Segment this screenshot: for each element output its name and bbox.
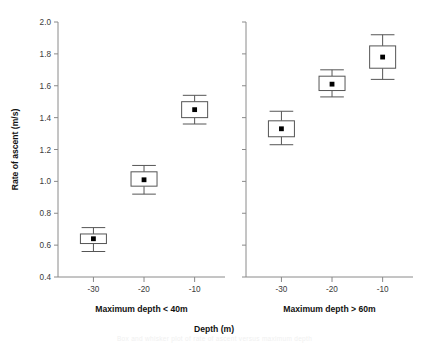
x-tick-label: -10: [189, 285, 201, 294]
x-tick-label: -30: [88, 285, 100, 294]
box-whisker-item: [268, 111, 294, 144]
median-marker: [330, 82, 335, 87]
median-marker: [279, 126, 284, 131]
axis-titles: Depth (m)Rate of ascent (m/s): [10, 109, 234, 334]
median-marker: [192, 107, 197, 112]
y-tick-label: 1.4: [40, 114, 52, 123]
y-tick-label: 1.0: [40, 177, 52, 186]
x-tick-label: -10: [377, 285, 389, 294]
panel-right: -30-20-10Maximum depth > 60m: [242, 22, 413, 314]
box-whisker-item: [80, 228, 106, 252]
box-whisker-item: [319, 70, 345, 97]
median-marker: [142, 177, 147, 182]
box-whisker-item: [131, 165, 157, 194]
panel-left: 0.40.60.81.01.21.41.61.82.0-30-20-10Maxi…: [40, 18, 225, 314]
y-tick-label: 0.8: [40, 209, 52, 218]
x-axis-title: Depth (m): [194, 324, 234, 334]
panel-title: Maximum depth > 60m: [283, 304, 376, 314]
box-whisker-item: [182, 95, 208, 124]
x-tick-label: -20: [326, 285, 338, 294]
y-axis-title: Rate of ascent (m/s): [10, 109, 20, 191]
box-whisker-item: [370, 35, 396, 80]
y-tick-label: 1.6: [40, 82, 52, 91]
x-tick-label: -30: [276, 285, 288, 294]
y-tick-label: 0.4: [40, 273, 52, 282]
y-tick-label: 2.0: [40, 18, 52, 27]
panel-title: Maximum depth < 40m: [95, 304, 188, 314]
median-marker: [91, 236, 96, 241]
y-tick-label: 0.6: [40, 241, 52, 250]
median-marker: [380, 55, 385, 60]
x-tick-label: -20: [138, 285, 150, 294]
y-tick-label: 1.8: [40, 50, 52, 59]
y-tick-label: 1.2: [40, 146, 52, 155]
box-plot-chart: 0.40.60.81.01.21.41.61.82.0-30-20-10Maxi…: [0, 0, 429, 343]
caption-fragment: Box and whisker plot of rate of ascent v…: [0, 335, 429, 343]
figure-container: 0.40.60.81.01.21.41.61.82.0-30-20-10Maxi…: [0, 0, 429, 343]
